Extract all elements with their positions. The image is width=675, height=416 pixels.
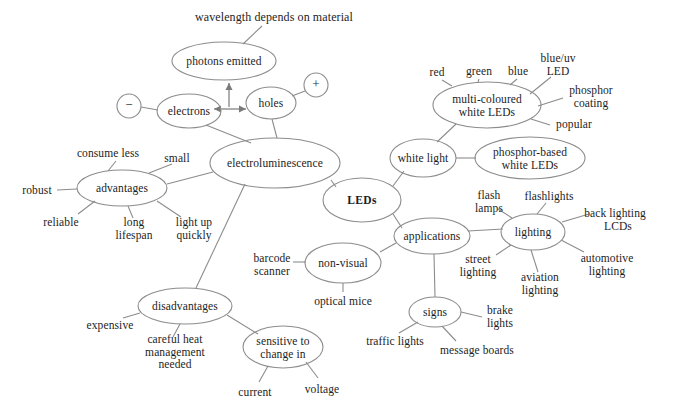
edge-advantages-small (149, 164, 172, 173)
node-label-white-light[interactable]: white light (398, 152, 449, 165)
leaf-traffic-lights: traffic lights (366, 335, 424, 348)
leaf-brake-lights: brake lights (487, 304, 513, 329)
leaf-green: green (466, 65, 492, 78)
leaf-message-boards: message boards (440, 344, 514, 357)
edge-advantages-reliable (78, 201, 95, 214)
leaf-wavelength-depends-on-material: wavelength depends on material (195, 11, 353, 24)
leaf-light-up-quickly: light up quickly (176, 216, 212, 241)
edge-minus-electrons (141, 107, 158, 110)
node-label-leds[interactable]: LEDs (347, 194, 376, 207)
edge-whitelight-multicoloured (437, 124, 456, 142)
leaf-long-lifespan: long lifespan (115, 216, 152, 241)
node-label-electroluminescence[interactable]: electroluminescence (227, 157, 323, 170)
leaf-robust: robust (22, 184, 51, 197)
edge-sensitive-current (259, 366, 268, 382)
edge-lighting-aviationlighting (531, 250, 538, 272)
leaf-flashlights: flashlights (524, 190, 573, 203)
edge-signs-trafficlights (399, 322, 418, 333)
edge-sensitive-voltage (306, 362, 318, 378)
leaf-expensive: expensive (87, 319, 134, 332)
leaf-careful-heat-management-needed: careful heat management needed (145, 333, 205, 371)
node-label-multi-coloured-white-leds[interactable]: multi-coloured white LEDs (452, 93, 522, 118)
leaf-red: red (430, 66, 445, 79)
leaf-blue: blue (508, 65, 528, 78)
leaf-back-lighting-lcds: back lighting LCDs (584, 207, 646, 232)
edge-group (57, 26, 589, 382)
edge-lighting-automotivelighting (561, 240, 584, 252)
leaf-automotive-lighting: automotive lighting (581, 252, 634, 277)
node-label-sensitive-to-change-in[interactable]: sensitive to change in (256, 335, 309, 360)
node-label-minus-charge[interactable]: − (125, 99, 132, 112)
node-label-phosphor-based-white-leds[interactable]: phosphor-based white LEDs (493, 146, 567, 171)
leaf-voltage: voltage (305, 383, 340, 396)
edge-applications-signs (434, 254, 435, 297)
edge-applications-nonvisual (380, 243, 396, 252)
leaf-optical-mice: optical mice (314, 295, 372, 308)
edge-multicoloured-blueuvled (530, 77, 551, 94)
edge-multicoloured-phosphorcoating (538, 98, 563, 106)
node-label-applications[interactable]: applications (404, 230, 461, 243)
leaf-barcode-scanner: barcode scanner (253, 252, 290, 277)
edge-signs-brakelights (461, 312, 482, 317)
leaf-reliable: reliable (43, 216, 78, 229)
leaf-flash-lamps: flash lamps (475, 189, 503, 214)
edge-photons-wavelength (243, 26, 262, 44)
node-label-disadvantages[interactable]: disadvantages (152, 300, 218, 313)
node-label-non-visual[interactable]: non-visual (318, 257, 368, 270)
edge-disadvantages-sensitive (227, 315, 258, 334)
node-label-holes[interactable]: holes (259, 97, 284, 110)
edge-electro-advantages (167, 172, 213, 184)
edge-lighting-streetlighting (496, 245, 511, 255)
edge-lighting-flashlights (537, 203, 546, 214)
leaf-popular: popular (556, 118, 592, 131)
edge-signs-messageboards (442, 326, 456, 341)
edge-multicoloured-green (478, 79, 479, 82)
edge-electro-electrons (206, 125, 251, 143)
edge-electro-holes (272, 119, 277, 138)
node-label-photons-emitted[interactable]: photons emitted (186, 55, 261, 68)
edge-multicoloured-red (442, 80, 452, 86)
node-label-plus-charge[interactable]: + (312, 78, 319, 91)
edge-plus-holes (292, 91, 305, 96)
node-label-signs[interactable]: signs (423, 306, 447, 319)
edge-applications-lighting (468, 229, 503, 231)
edge-multicoloured-popular (531, 119, 550, 125)
leaf-street-lighting: street lighting (460, 253, 497, 278)
leaf-small: small (164, 152, 189, 165)
leaf-consume-less: consume less (77, 147, 139, 160)
node-label-electrons[interactable]: electrons (168, 105, 210, 118)
node-label-lighting[interactable]: lighting (515, 226, 552, 239)
edge-disadvantages-expensive (123, 313, 140, 318)
leaf-blue-uv-led: blue/uv LED (540, 52, 575, 77)
leaf-aviation-lighting: aviation lighting (521, 271, 559, 296)
node-label-advantages[interactable]: advantages (96, 182, 148, 195)
edge-advantages-robust (57, 189, 77, 190)
leaf-current: current (238, 386, 271, 399)
mind-map-canvas: LEDs electroluminescence white light app… (0, 0, 675, 416)
edge-advantages-consumeless (108, 161, 116, 171)
leaf-phosphor-coating: phosphor coating (569, 84, 613, 109)
